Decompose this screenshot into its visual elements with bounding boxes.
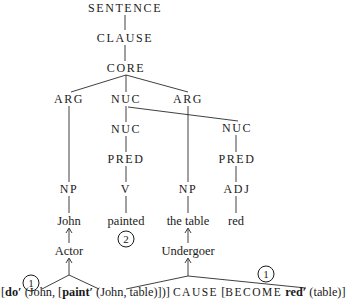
node-core: CORE	[107, 62, 145, 74]
node-np-john: NP	[60, 183, 79, 195]
node-arg-actor: ARG	[54, 93, 84, 105]
node-pred-verb: PRED	[107, 153, 144, 165]
node-pred-adj: PRED	[218, 153, 255, 165]
ls-do: do′	[5, 285, 21, 299]
ls-part1: (John, [	[22, 285, 63, 299]
macrorole-undergoer: Undergoer	[161, 245, 214, 258]
word-painted: painted	[108, 215, 145, 228]
macrorole-actor: Actor	[55, 245, 83, 258]
step-marker-1-right: 1	[258, 266, 275, 283]
node-v: V	[121, 183, 131, 195]
word-red: red	[228, 215, 244, 228]
node-clause: CLAUSE	[97, 32, 153, 44]
node-nuc-adj: NUC	[222, 122, 252, 134]
ls-cause: CAUSE	[173, 286, 218, 298]
node-arg-undergoer: ARG	[173, 93, 203, 105]
node-sentence: SENTENCE	[88, 2, 162, 14]
node-nuc-top: NUC	[111, 93, 141, 105]
ls-part2: (John, table)])]	[93, 285, 173, 299]
step-marker-2: 2	[118, 231, 135, 248]
ls-part4: (table)]	[306, 285, 345, 299]
word-the-table: the table	[167, 215, 210, 228]
ls-red: red′	[285, 285, 306, 299]
node-adj: ADJ	[224, 183, 251, 195]
word-john: John	[57, 215, 81, 228]
ls-become: BECOME	[225, 286, 282, 298]
ls-paint: paint′	[62, 285, 93, 299]
node-np-table: NP	[179, 183, 198, 195]
node-nuc-verb: NUC	[111, 123, 141, 135]
logical-structure: [do′ (John, [paint′ (John, table)])] CAU…	[1, 286, 346, 299]
